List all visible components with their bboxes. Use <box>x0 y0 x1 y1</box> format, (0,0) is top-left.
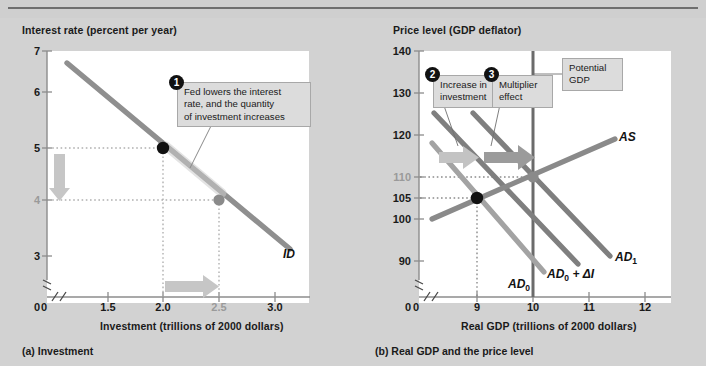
panel-b-curve-label-as: AS <box>619 130 636 144</box>
panel-a-graphics <box>0 18 353 366</box>
panel-b-real-gdp-price-level: Price level (GDP deflator) 140 130 120 1… <box>353 18 706 366</box>
panel-a-interest-rate-down-arrow <box>49 154 70 201</box>
panel-a-point-new <box>213 194 224 205</box>
panel-b-callout-3: Multiplier effect <box>492 75 553 108</box>
panel-a-investment: Interest rate (percent per year) 7 6 5 4… <box>0 18 353 366</box>
panel-b-point-initial <box>471 192 483 204</box>
panel-a-point-initial <box>157 142 169 154</box>
economics-figure: Interest rate (percent per year) 7 6 5 4… <box>0 0 706 366</box>
figure-body: Interest rate (percent per year) 7 6 5 4… <box>0 18 706 366</box>
panel-b-curve-label-ad-delta-tail: + ΔI <box>569 267 594 281</box>
panel-b-curve-label-ad1: AD1 <box>615 250 637 266</box>
top-divider-rule <box>8 7 698 9</box>
panel-a-callout-1: Fed lowers the interest rate, and the qu… <box>177 82 311 127</box>
panel-b-callout-badge-3: 3 <box>484 67 499 82</box>
panel-a-curve-highlight <box>166 146 222 193</box>
panel-a-curve-label-id: ID <box>283 247 295 261</box>
panel-b-curve-label-ad-delta: AD0 + ΔI <box>547 267 594 283</box>
panel-b-curve-label-ad1-sub: 1 <box>632 256 637 266</box>
panel-b-graphics <box>353 18 706 366</box>
panel-b-increase-investment-arrow <box>439 146 479 169</box>
panel-b-point-new <box>527 171 538 182</box>
panel-b-curve-label-ad0-sub: 0 <box>525 283 530 293</box>
panel-b-y-axis-break <box>415 280 423 290</box>
panel-b-potential-gdp-label: Potential GDP <box>562 58 623 91</box>
panel-b-curve-label-ad1-text: AD <box>615 250 632 264</box>
panel-b-callout-badge-2: 2 <box>425 67 440 82</box>
panel-a-investment-right-arrow <box>165 275 219 298</box>
panel-b-curve-label-ad-delta-text: AD <box>547 267 564 281</box>
panel-a-callout-badge-1: 1 <box>169 75 184 90</box>
panel-b-curve-label-ad0: AD0 <box>508 277 530 293</box>
panel-b-curve-label-ad0-text: AD <box>508 277 525 291</box>
panel-a-y-axis-break <box>43 280 51 290</box>
